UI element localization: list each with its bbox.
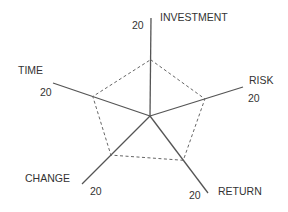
label-return: RETURN [218,185,262,197]
max-label-change: 20 [90,185,102,197]
label-time: TIME [18,64,43,76]
axis-return [150,116,208,193]
axis-time [53,83,150,116]
label-risk: RISK [249,74,274,86]
radar-axes [53,18,243,193]
axis-risk [150,87,243,116]
data-polygon [93,60,205,161]
axis-investment [150,18,151,116]
radar-chart: INVESTMENT 20 RISK 20 TIME 20 CHANGE 20 … [0,0,288,212]
label-change: CHANGE [25,172,70,184]
axis-labels: INVESTMENT 20 RISK 20 TIME 20 CHANGE 20 … [18,11,274,201]
axis-change [82,116,150,184]
label-investment: INVESTMENT [160,11,228,23]
max-label-time: 20 [40,86,52,98]
max-label-risk: 20 [248,92,260,104]
max-label-investment: 20 [132,19,144,31]
max-label-return: 20 [189,189,201,201]
